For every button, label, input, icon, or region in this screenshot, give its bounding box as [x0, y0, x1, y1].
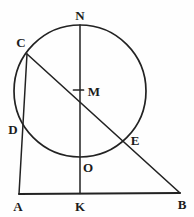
label-E: E — [131, 133, 140, 148]
line-C-B — [27, 54, 180, 193]
label-M: M — [88, 84, 100, 99]
label-B: B — [178, 197, 187, 212]
line-C-A — [19, 54, 27, 194]
label-C: C — [16, 35, 25, 50]
label-K: K — [75, 199, 86, 214]
geometry-figure: N C M D E O A K B — [0, 0, 194, 217]
label-O: O — [83, 160, 93, 175]
circle-triangle-diagram: N C M D E O A K B — [0, 0, 194, 217]
label-N: N — [75, 8, 85, 23]
line-A-B — [19, 193, 180, 194]
label-D: D — [8, 122, 17, 137]
label-A: A — [13, 199, 23, 214]
